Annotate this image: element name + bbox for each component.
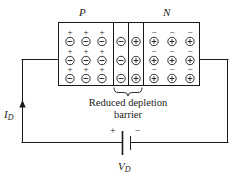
- svg-text:+: +: [99, 46, 104, 56]
- n-region-label: N: [163, 7, 170, 18]
- charge-pair: −: [168, 27, 176, 46]
- depletion-caption-line1: Reduced depletion: [71, 98, 185, 109]
- svg-text:−: −: [187, 64, 192, 74]
- charge-pair: −: [150, 27, 158, 46]
- svg-text:−: −: [151, 64, 156, 74]
- ion-negative: [117, 56, 125, 64]
- charge-pair: +: [82, 64, 90, 83]
- charge-pair: −: [168, 46, 176, 65]
- current-subscript: D: [8, 113, 14, 122]
- ion-negative: [117, 74, 125, 82]
- current-arrow: [19, 100, 25, 108]
- charge-pair: +: [66, 64, 74, 83]
- ion-positive: [132, 74, 140, 82]
- pn-junction-schematic: + + + + +: [0, 0, 247, 177]
- svg-text:+: +: [67, 64, 72, 74]
- battery-positive-label: +: [110, 126, 116, 136]
- charge-pair: +: [98, 46, 106, 65]
- charge-pair: +: [82, 46, 90, 65]
- charge-pair: +: [98, 64, 106, 83]
- semiconductor-bar: [59, 23, 200, 86]
- n-region-charges: − − − −: [150, 27, 194, 83]
- source-symbol: V: [118, 160, 125, 172]
- svg-text:−: −: [169, 46, 174, 56]
- charge-pair: +: [82, 27, 90, 46]
- p-region-label: P: [79, 7, 86, 18]
- p-region-charges: + + + + +: [66, 27, 106, 83]
- svg-text:+: +: [83, 64, 88, 74]
- ion-positive: [132, 37, 140, 45]
- source-label: VD: [118, 157, 131, 174]
- svg-text:−: −: [187, 27, 192, 37]
- svg-text:+: +: [67, 46, 72, 56]
- svg-text:−: −: [169, 64, 174, 74]
- charge-pair: −: [150, 46, 158, 65]
- charge-pair: −: [186, 27, 194, 46]
- depletion-brace: [114, 88, 142, 96]
- current-label: ID: [4, 105, 13, 122]
- depletion-caption-line2: barrier: [71, 110, 185, 121]
- svg-text:−: −: [151, 46, 156, 56]
- svg-text:−: −: [169, 27, 174, 37]
- source-subscript: D: [125, 165, 131, 174]
- depletion-negative-ions: [117, 37, 125, 82]
- ion-positive: [132, 56, 140, 64]
- svg-text:+: +: [83, 46, 88, 56]
- figure-canvas: + + + + +: [0, 0, 247, 177]
- charge-pair: +: [66, 46, 74, 65]
- charge-pair: −: [186, 64, 194, 83]
- depletion-positive-ions: [132, 37, 140, 82]
- svg-text:−: −: [187, 46, 192, 56]
- svg-text:+: +: [83, 27, 88, 37]
- svg-text:+: +: [99, 64, 104, 74]
- svg-text:−: −: [151, 27, 156, 37]
- battery-negative-label: −: [135, 126, 141, 136]
- charge-pair: −: [168, 64, 176, 83]
- svg-text:+: +: [99, 27, 104, 37]
- battery-symbol: [123, 131, 131, 155]
- charge-pair: +: [98, 27, 106, 46]
- svg-text:+: +: [67, 27, 72, 37]
- charge-pair: +: [66, 27, 74, 46]
- ion-negative: [117, 37, 125, 45]
- charge-pair: −: [186, 46, 194, 65]
- charge-pair: −: [150, 64, 158, 83]
